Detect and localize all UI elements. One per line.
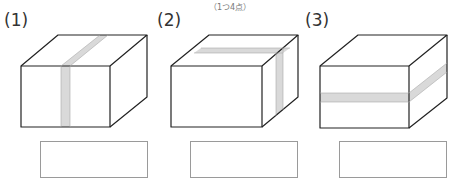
- box-1-figure: [21, 35, 147, 127]
- answer-box-2[interactable]: [190, 141, 298, 178]
- box-2-figure: [171, 35, 298, 127]
- box-3-figure: [320, 35, 447, 128]
- answer-box-1[interactable]: [40, 141, 148, 178]
- answer-box-3[interactable]: [339, 141, 447, 178]
